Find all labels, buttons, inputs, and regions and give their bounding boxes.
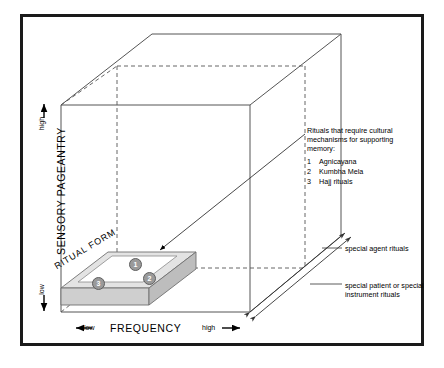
- y-axis-low-label: low: [38, 273, 45, 307]
- legend-item: 2 Kumbha Mela: [307, 167, 437, 176]
- legend-line-1: Rituals that require cultural: [307, 126, 437, 135]
- legend-item-number: 2: [307, 167, 314, 176]
- legend-item-number: 3: [307, 177, 314, 186]
- legend-item-label: Agnicayana: [319, 157, 357, 166]
- node-marker-2: 2: [143, 272, 156, 285]
- legend-item: 1 Agnicayana: [307, 157, 437, 166]
- legend-line-3: memory:: [307, 144, 437, 153]
- legend-item-number: 1: [307, 157, 314, 166]
- annotation-special-patient-rituals: special patient or special instrument ri…: [345, 281, 442, 300]
- x-axis-title: FREQUENCY: [110, 322, 181, 334]
- node-marker-1: 1: [129, 258, 142, 271]
- legend-item-label: Hajj rituals: [319, 177, 353, 186]
- legend-block: Rituals that require cultural mechanisms…: [307, 126, 437, 187]
- legend-list: 1 Agnicayana 2 Kumbha Mela 3 Hajj ritual…: [307, 157, 437, 186]
- legend-item: 3 Hajj rituals: [307, 177, 437, 186]
- legend-line-2: mechanisms for supporting: [307, 135, 437, 144]
- annotation-special-agent-rituals: special agent rituals: [345, 244, 440, 253]
- legend-item-label: Kumbha Mela: [319, 167, 363, 176]
- x-axis-low-label: low: [84, 324, 95, 331]
- y-axis-title: SENSORY PAGEANTRY: [55, 121, 67, 261]
- figure-root: high SENSORY PAGEANTRY low low FREQUENCY…: [0, 0, 444, 368]
- x-axis-high-label: high: [202, 324, 215, 331]
- y-axis-high-label: high: [38, 107, 45, 141]
- node-marker-3: 3: [92, 277, 105, 290]
